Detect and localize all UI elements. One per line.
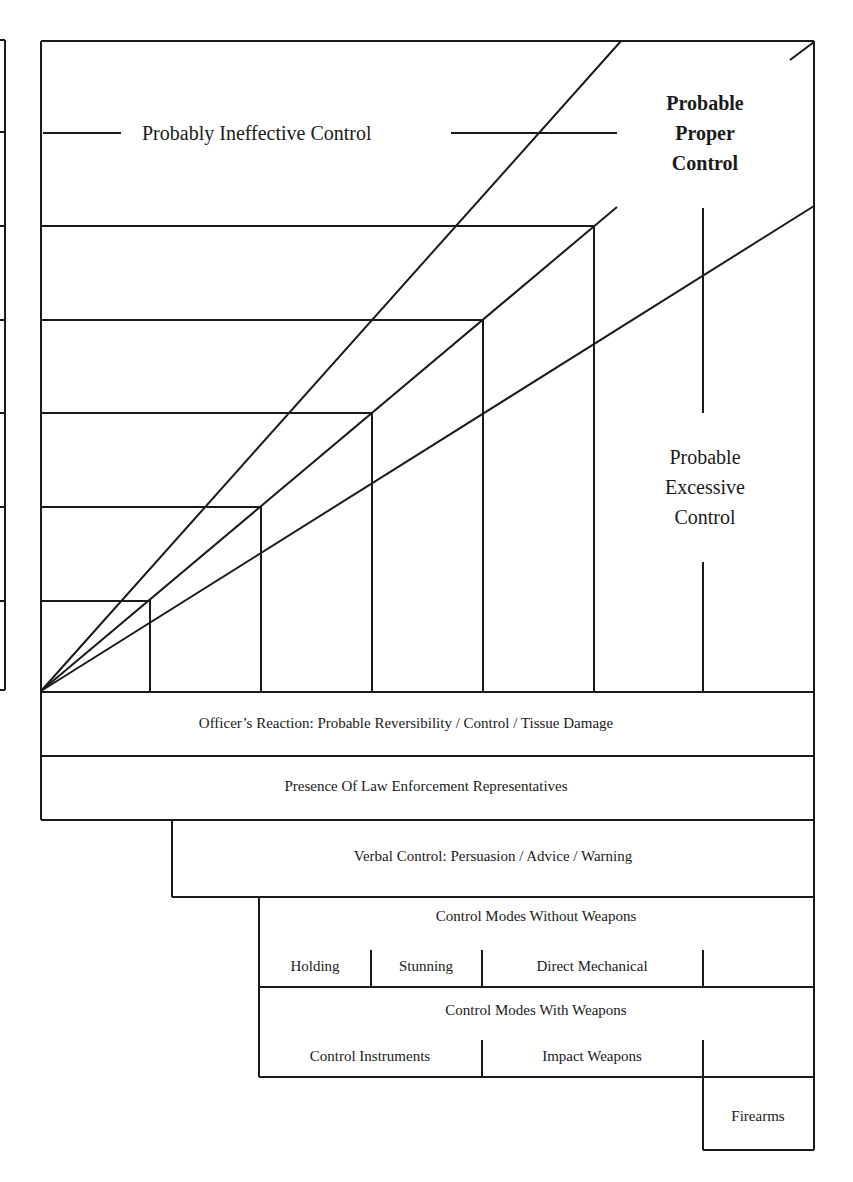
excessive-line-1: Probable xyxy=(665,442,745,472)
ineffective-control-label: Probably Ineffective Control xyxy=(142,118,372,148)
without-weapons-title: Control Modes Without Weapons xyxy=(436,908,637,925)
presence-band: Presence Of Law Enforcement Representati… xyxy=(284,778,567,795)
officer-reaction-band: Officer’s Reaction: Probable Reversibili… xyxy=(199,715,613,732)
excessive-control-label: Probable Excessive Control xyxy=(665,442,745,532)
proper-control-label: Probable Proper Control xyxy=(666,88,743,178)
holding-mode: Holding xyxy=(290,958,339,975)
with-weapons-title: Control Modes With Weapons xyxy=(445,1002,626,1019)
control-instruments-mode: Control Instruments xyxy=(310,1048,430,1065)
stunning-mode: Stunning xyxy=(399,958,453,975)
firearms-mode: Firearms xyxy=(731,1108,784,1125)
chart-frame xyxy=(41,41,814,1077)
verbal-control-band: Verbal Control: Persuasion / Advice / Wa… xyxy=(354,848,632,865)
direct-mechanical-mode: Direct Mechanical xyxy=(536,958,647,975)
left-partial-panel xyxy=(0,40,5,690)
excessive-line-2: Excessive xyxy=(665,472,745,502)
impact-weapons-mode: Impact Weapons xyxy=(542,1048,642,1065)
excessive-line-3: Control xyxy=(665,502,745,532)
proper-line-1: Probable xyxy=(666,88,743,118)
proper-line-3: Control xyxy=(666,148,743,178)
proper-line-2: Proper xyxy=(666,118,743,148)
